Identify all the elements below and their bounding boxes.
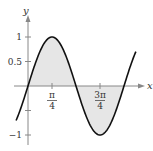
sine-chart: x y 10.5−1π43π4 xyxy=(0,0,153,151)
x-tick-label-denominator: 4 xyxy=(97,101,103,111)
x-tick-label-numerator: 3π xyxy=(94,90,106,100)
y-tick-label: 0.5 xyxy=(8,57,23,67)
y-tick-label: −1 xyxy=(9,130,22,140)
x-tick-label-numerator: π xyxy=(49,90,55,100)
y-axis-label: y xyxy=(22,5,29,16)
x-axis-label: x xyxy=(147,80,153,91)
y-tick-label: 1 xyxy=(16,32,22,42)
x-axis-arrow-icon xyxy=(138,84,145,89)
x-tick-label-denominator: 4 xyxy=(49,101,55,111)
y-axis-arrow-icon xyxy=(26,15,31,22)
